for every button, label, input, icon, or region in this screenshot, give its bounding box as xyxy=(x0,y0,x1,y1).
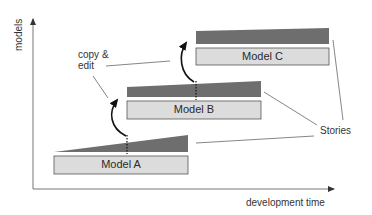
copy-edit-label-line1: copy & xyxy=(78,50,109,60)
copy-arrow-b-to-c xyxy=(181,43,194,82)
stories-leader-b xyxy=(264,92,317,125)
copy-edit-label-line2: edit xyxy=(78,61,94,71)
stories-leader-c xyxy=(333,40,343,120)
diagram-canvas: models development time copy & edit Stor… xyxy=(0,0,372,215)
y-axis-label: models xyxy=(14,19,24,51)
model-b-label: Model B xyxy=(127,104,261,115)
copy-arrow-a-to-b xyxy=(112,100,126,136)
stories-leader-a xyxy=(196,136,314,143)
model-c-stories-wedge xyxy=(196,28,329,44)
copy-edit-leader-to-b xyxy=(93,76,108,98)
model-a-stories-wedge xyxy=(54,135,188,152)
stories-label: Stories xyxy=(320,126,351,136)
model-a-label: Model A xyxy=(54,159,188,170)
model-c-label: Model C xyxy=(196,51,329,62)
model-b-stories-wedge xyxy=(127,81,261,97)
copy-edit-leader-to-c xyxy=(106,61,170,66)
x-axis-label: development time xyxy=(246,198,325,208)
